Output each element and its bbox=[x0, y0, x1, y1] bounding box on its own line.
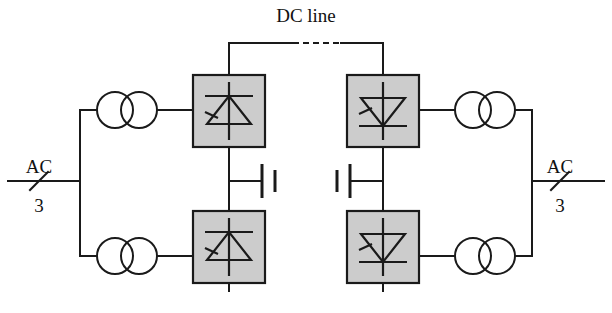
ac-feed-left bbox=[8, 110, 97, 256]
transformer-coil-primary bbox=[97, 92, 133, 128]
transformer-coil-secondary bbox=[479, 238, 515, 274]
converter-right-lower bbox=[347, 181, 419, 291]
converter-right-upper bbox=[347, 75, 419, 181]
transformer-coil-primary bbox=[455, 92, 491, 128]
transformer-coil-primary bbox=[97, 238, 133, 274]
circuit-canvas: DC line AC 3 AC 3 bbox=[0, 0, 612, 313]
dc-line-label: DC line bbox=[276, 5, 336, 26]
phase-count-right: 3 bbox=[555, 195, 565, 216]
ac-label-left: AC bbox=[26, 156, 52, 177]
ac-label-right: AC bbox=[547, 156, 573, 177]
ac-feed-right bbox=[532, 110, 604, 256]
transformer-coil-secondary bbox=[121, 238, 157, 274]
capacitor-right bbox=[337, 164, 383, 198]
transformer-left-lower bbox=[97, 238, 193, 274]
hvdc-diagram: DC line AC 3 AC 3 bbox=[0, 0, 612, 313]
converter-left-upper bbox=[193, 75, 265, 181]
transformer-coil-primary bbox=[455, 238, 491, 274]
capacitor-left bbox=[229, 164, 275, 198]
dc-transmission-line bbox=[229, 43, 383, 75]
transformer-coil-secondary bbox=[479, 92, 515, 128]
transformer-right-lower bbox=[419, 238, 532, 274]
phase-count-left: 3 bbox=[34, 195, 44, 216]
transformer-right-upper bbox=[419, 92, 532, 128]
transformer-coil-secondary bbox=[121, 92, 157, 128]
transformer-left-upper bbox=[97, 92, 193, 128]
converter-left-lower bbox=[193, 181, 265, 283]
